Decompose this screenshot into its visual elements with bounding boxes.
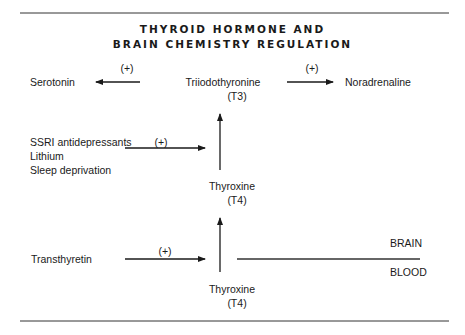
diagram-title-line1: THYROID HORMONE AND	[0, 22, 465, 37]
compartment-brain: BRAIN	[390, 237, 422, 249]
node-noradrenaline: Noradrenaline	[345, 76, 411, 88]
factor-sleep-deprivation: Sleep deprivation	[30, 164, 111, 176]
edge-label-t3-noradrenaline: (+)	[305, 62, 318, 74]
edge-label-factors: (+)	[154, 136, 167, 148]
node-t3-name: Triiodothyronine	[186, 76, 261, 88]
node-transthyretin: Transthyretin	[31, 253, 92, 265]
node-serotonin: Serotonin	[30, 76, 75, 88]
edge-label-t3-serotonin: (+)	[120, 62, 133, 74]
node-t4-blood-abbr: (T4)	[227, 297, 246, 309]
node-t3-abbr: (T3)	[227, 90, 246, 102]
edge-label-transthyretin: (+)	[158, 245, 171, 257]
factor-lithium: Lithium	[30, 150, 64, 162]
diagram-title-line2: BRAIN CHEMISTRY REGULATION	[0, 37, 465, 52]
node-t4-brain-name: Thyroxine	[209, 180, 255, 192]
factor-ssri: SSRI antidepressants	[30, 136, 132, 148]
compartment-blood: BLOOD	[390, 266, 427, 278]
node-t4-blood-name: Thyroxine	[209, 283, 255, 295]
node-t4-brain-abbr: (T4)	[227, 194, 246, 206]
